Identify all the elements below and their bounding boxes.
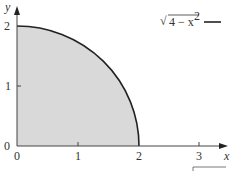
y-tick-label-0: 0 bbox=[4, 139, 10, 153]
chart-svg: 2 1 0 0 1 2 3 y x √ 4 − x 2 bbox=[0, 0, 246, 172]
legend: √ 4 − x 2 bbox=[160, 9, 221, 29]
x-tick-label-3: 3 bbox=[196, 149, 202, 163]
bottom-bracket-line bbox=[193, 167, 226, 171]
legend-exponent: 2 bbox=[194, 9, 200, 23]
y-tick-label-2: 2 bbox=[4, 19, 10, 33]
x-tick-label-0: 0 bbox=[14, 149, 20, 163]
y-axis-arrow-icon bbox=[14, 6, 20, 15]
chart-container: 2 1 0 0 1 2 3 y x √ 4 − x 2 bbox=[0, 0, 246, 172]
legend-text: 4 − x bbox=[169, 15, 194, 29]
legend-radical: √ bbox=[160, 14, 167, 28]
shaded-region bbox=[17, 26, 139, 146]
x-axis-label: x bbox=[223, 149, 230, 163]
x-tick-label-2: 2 bbox=[136, 149, 142, 163]
y-tick-label-1: 1 bbox=[5, 79, 11, 93]
y-axis-label: y bbox=[4, 0, 11, 14]
x-tick-label-1: 1 bbox=[75, 149, 81, 163]
